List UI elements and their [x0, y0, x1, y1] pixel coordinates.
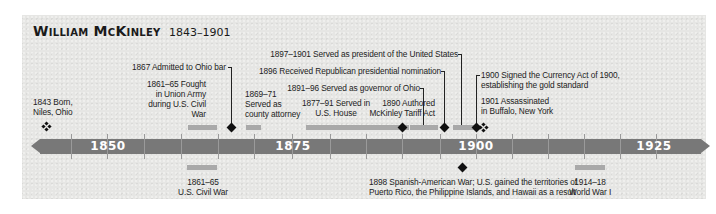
title-years: 1843–1901 — [169, 26, 231, 39]
event-county-attorney: 1869–71 Served as county attorney — [245, 89, 300, 119]
event-civil-war-line: U.S. Civil War — [170, 187, 236, 197]
event-union-army-line: during U.S. Civil — [140, 99, 206, 109]
timeline-axis — [40, 139, 701, 154]
axis-label-1875: 1875 — [275, 139, 310, 154]
connector-ohio-bar — [231, 67, 232, 125]
axis-label-1850: 1850 — [90, 139, 125, 154]
event-assassinated-line: in Buffalo, New York — [481, 106, 553, 116]
axis-tick — [366, 134, 367, 159]
span-world-war-1 — [575, 165, 605, 170]
event-civil-war-line: 1861–65 — [170, 177, 236, 187]
axis-tick — [218, 134, 219, 159]
axis-tick — [71, 134, 72, 159]
event-union-army-line: in Union Army — [140, 89, 206, 99]
axis-label-1900: 1900 — [458, 139, 493, 154]
axis-label-1925: 1925 — [636, 139, 671, 154]
event-spanish-american-war: 1898 Spanish-American War; U.S. gained t… — [369, 177, 577, 197]
event-spanish-american-war-line: Puerto Rico, the Philippine Islands, and… — [369, 187, 577, 197]
axis-tick — [584, 134, 585, 159]
event-currency-act-line: 1900 Signed the Currency Act of 1900, — [481, 70, 620, 80]
axis-tick — [144, 134, 145, 159]
axis-tick — [254, 134, 255, 159]
event-president: 1897–1901 Served as president of the Uni… — [262, 49, 458, 59]
event-born: 1843 Born, Niles, Ohio — [33, 97, 73, 117]
event-assassinated: 1901 Assassinated in Buffalo, New York — [481, 96, 553, 116]
span-county-attorney — [246, 125, 261, 130]
event-civil-war: 1861–65 U.S. Civil War — [170, 177, 236, 197]
event-world-war-1-line: 1914–18 — [560, 177, 620, 187]
event-world-war-1-line: World War I — [560, 187, 620, 197]
axis-tick — [330, 134, 331, 159]
born-marker-icon — [42, 122, 51, 131]
connector-currency-act — [476, 75, 480, 76]
death-marker-icon — [479, 123, 488, 132]
event-currency-act: 1900 Signed the Currency Act of 1900, es… — [481, 70, 620, 90]
connector-governor — [423, 88, 424, 125]
axis-tick — [620, 134, 621, 159]
timeline-title: William McKinley 1843–1901 — [33, 22, 231, 40]
event-assassinated-line: 1901 Assassinated — [481, 96, 553, 106]
axis-tick — [512, 134, 513, 159]
event-born-line: Niles, Ohio — [33, 107, 73, 117]
event-county-attorney-line: county attorney — [245, 109, 300, 119]
axis-tick — [181, 134, 182, 159]
event-union-army-line: War — [140, 109, 206, 119]
axis-tick — [402, 134, 403, 159]
event-currency-act-line: establishing the gold standard — [481, 80, 620, 90]
axis-arrow-left — [31, 139, 40, 153]
axis-arrow-right — [701, 139, 710, 153]
title-name: William McKinley — [33, 23, 161, 39]
event-born-line: 1843 Born, — [33, 97, 73, 107]
axis-tick — [548, 134, 549, 159]
event-spanish-american-war-line: 1898 Spanish-American War; U.S. gained t… — [369, 177, 577, 187]
event-county-attorney-line: Served as — [245, 99, 300, 109]
axis-tick — [440, 134, 441, 159]
event-ohio-bar: 1867 Admitted to Ohio bar — [120, 62, 226, 72]
connector-currency-act — [476, 75, 477, 125]
connector-nomination — [444, 71, 445, 125]
span-civil-war — [187, 165, 217, 170]
event-nomination: 1896 Received Republican presidential no… — [250, 66, 441, 76]
event-governor: 1891–96 Served as governor of Ohio — [280, 83, 420, 93]
span-union-army — [188, 125, 217, 130]
connector-president — [461, 54, 462, 125]
span-governor — [410, 125, 438, 130]
span-us-house — [306, 125, 409, 130]
event-world-war-1: 1914–18 World War I — [560, 177, 620, 197]
event-union-army-line: 1861–65 Fought — [140, 79, 206, 89]
event-union-army: 1861–65 Fought in Union Army during U.S.… — [140, 79, 206, 119]
